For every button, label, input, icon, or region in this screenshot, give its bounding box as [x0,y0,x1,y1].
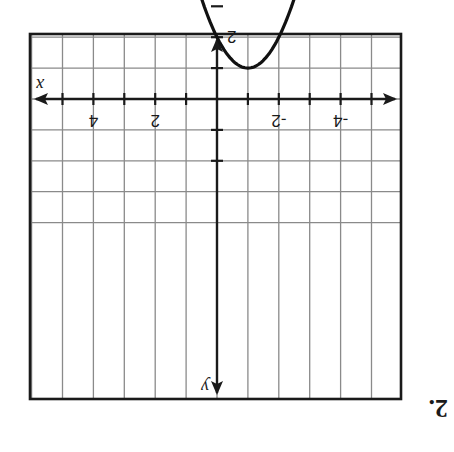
graph-frame [30,34,401,399]
x-tick-label: -2 [271,111,286,130]
x-axis-label: x [36,75,45,95]
graph-figure: -4-2242468 x y 2. [0,0,454,452]
x-tick-label: -4 [333,111,348,130]
x-tick-label: 4 [89,111,98,130]
y-axis-label: y [201,377,211,397]
problem-number: 2. [429,394,449,423]
x-tick-label: 2 [150,111,159,130]
axes [34,38,397,395]
grid [30,34,401,399]
rotated-figure: -4-2242468 x y 2. [30,0,448,423]
y-tick-label: 2 [227,27,236,46]
